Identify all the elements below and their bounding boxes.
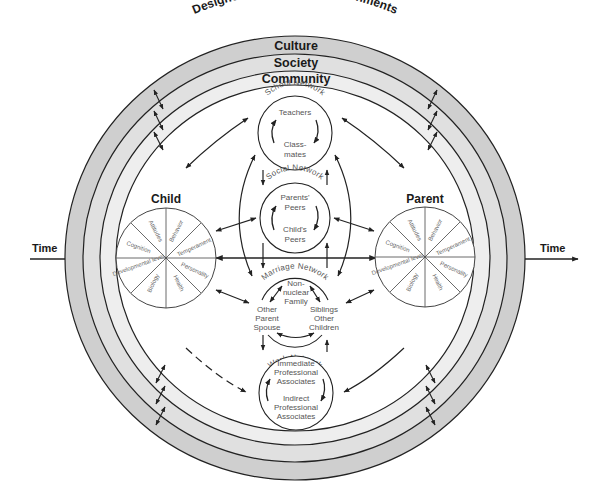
indirect-label-1: Indirect	[283, 394, 310, 403]
parent-title: Parent	[406, 192, 443, 206]
child-title: Child	[151, 192, 181, 206]
immediate-label-2: Professional	[274, 368, 318, 377]
siblings-label-3: Children	[309, 323, 339, 332]
classmates-label-2: mates	[284, 150, 306, 159]
classmates-label-1: Class-	[284, 140, 307, 149]
nonnuclear-label-3: Family	[284, 297, 308, 306]
work-network: Work Network Immediate Professional Asso…	[259, 353, 333, 430]
society-label: Society	[274, 56, 319, 70]
time-label-left: Time	[32, 242, 57, 254]
childs-peers-label-2: Peers	[285, 235, 306, 244]
childs-peers-label-1: Child's	[283, 225, 307, 234]
other-parent-label-2: Parent	[255, 314, 279, 323]
teachers-label: Teachers	[279, 108, 311, 117]
culture-label: Culture	[274, 39, 318, 53]
indirect-label-3: Associates	[277, 412, 316, 421]
nonnuclear-label-1: Non-	[287, 279, 305, 288]
immediate-label-1: Immediate	[277, 359, 315, 368]
other-parent-label-1: Other	[257, 305, 277, 314]
parents-peers-label-1: Parents'	[280, 193, 310, 202]
nonnuclear-label-2: nuclear	[283, 288, 310, 297]
ecological-model-diagram: Time Time Designed and Natural Environme…	[0, 0, 610, 504]
siblings-label-2: Other	[314, 314, 334, 323]
siblings-label-1: Siblings	[310, 305, 338, 314]
environment-label: Designed and Natural Environments	[190, 0, 400, 17]
parents-peers-label-2: Peers	[285, 203, 306, 212]
immediate-label-3: Associates	[277, 377, 316, 386]
indirect-label-2: Professional	[274, 403, 318, 412]
other-parent-label-3: Spouse	[253, 323, 281, 332]
time-label-right: Time	[540, 242, 565, 254]
